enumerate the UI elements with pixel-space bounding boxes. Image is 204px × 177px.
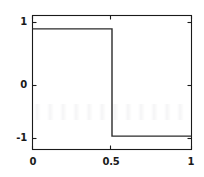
plot-area xyxy=(0,0,204,177)
y-tick-label-0: 0 xyxy=(20,80,27,90)
x-tick-label-0: 0 xyxy=(30,157,37,167)
x-tick-label-1: 1 xyxy=(188,157,195,167)
y-tick-label-neg1: -1 xyxy=(16,133,27,143)
x-tick-label-half: 0.5 xyxy=(102,157,119,167)
y-tick-label-1: 1 xyxy=(20,17,27,27)
figure-canvas: 1 0 -1 0 0.5 1 xyxy=(0,0,204,177)
